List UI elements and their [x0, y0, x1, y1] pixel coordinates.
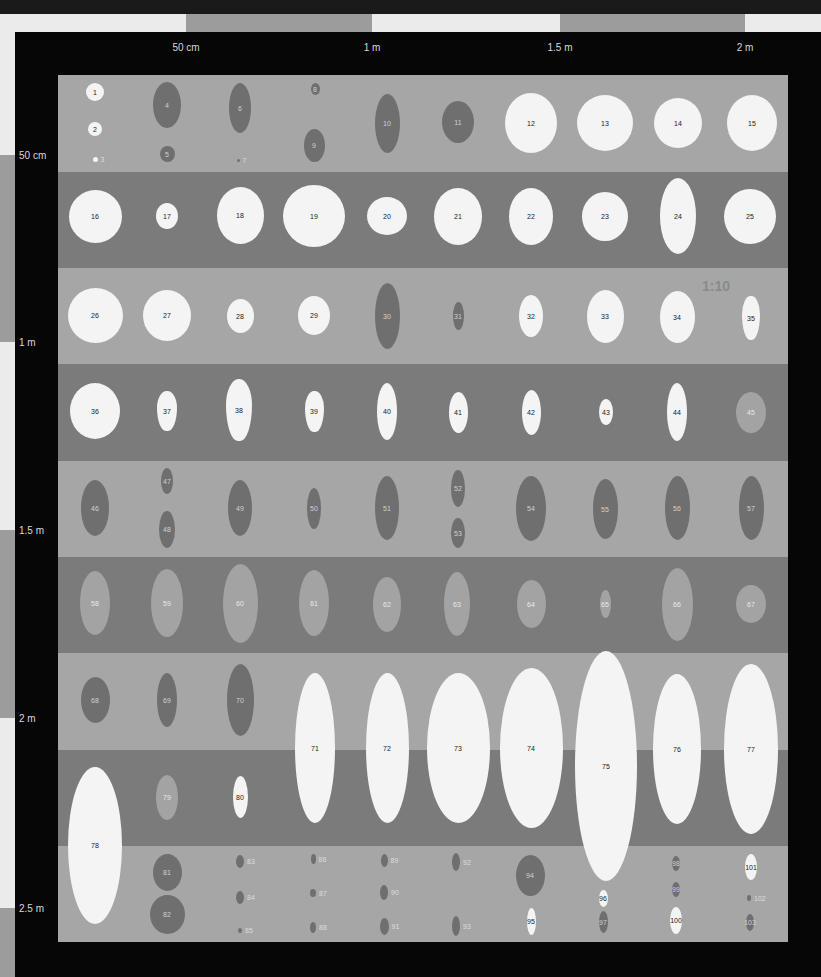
- specimen-50: 50: [307, 488, 321, 529]
- specimen-number: 56: [673, 505, 681, 512]
- specimen-number: 14: [674, 120, 682, 127]
- specimen-number: 9: [312, 142, 316, 149]
- specimen-10: 10: [375, 94, 400, 153]
- specimen-number: 81: [163, 869, 171, 876]
- specimen-46: 46: [81, 480, 109, 536]
- specimen-19: 19: [283, 185, 345, 247]
- specimen-number: 62: [383, 601, 391, 608]
- scale-bar-segment: [0, 908, 15, 977]
- scale-bar-segment: [0, 14, 15, 155]
- specimen-92: [452, 853, 460, 871]
- specimen-number: 23: [601, 213, 609, 220]
- specimen-48: 48: [159, 511, 175, 548]
- specimen-65: 65: [600, 590, 611, 618]
- specimen-7: [237, 159, 240, 162]
- specimen-number: 54: [527, 505, 535, 512]
- specimen-5: 5: [160, 146, 175, 162]
- specimen-number: 22: [527, 213, 535, 220]
- specimen-31: 31: [453, 302, 464, 330]
- specimen-96: 96: [599, 890, 608, 907]
- specimen-number: 69: [163, 697, 171, 704]
- left-scale-label: 50 cm: [19, 150, 46, 161]
- scale-bar-segment: [0, 718, 15, 908]
- specimen-number: 98: [672, 860, 680, 867]
- specimen-number: 70: [236, 697, 244, 704]
- specimen-51: 51: [375, 476, 399, 540]
- specimen-number: 60: [236, 600, 244, 607]
- scale-bar-segment: [0, 342, 15, 530]
- specimen-number: 71: [311, 745, 319, 752]
- specimen-number: 90: [391, 889, 399, 896]
- specimen-40: 40: [377, 383, 397, 440]
- specimen-75: 75: [575, 651, 637, 881]
- specimen-61: 61: [299, 570, 329, 636]
- specimen-99: 99: [672, 882, 680, 897]
- specimen-number: 67: [747, 601, 755, 608]
- specimen-14: 14: [654, 98, 702, 148]
- specimen-number: 1: [93, 89, 97, 96]
- specimen-54: 54: [516, 476, 546, 541]
- specimen-number: 17: [163, 213, 171, 220]
- specimen-number: 66: [673, 601, 681, 608]
- specimen-number: 8: [313, 86, 317, 93]
- specimen-57: 57: [739, 476, 764, 540]
- specimen-number: 33: [601, 313, 609, 320]
- specimen-number: 32: [527, 313, 535, 320]
- specimen-71: 71: [295, 673, 335, 823]
- specimen-number: 101: [745, 864, 757, 871]
- specimen-86: [311, 854, 316, 864]
- left-scale-label: 1 m: [19, 337, 36, 348]
- specimen-16: 16: [69, 190, 122, 243]
- specimen-35: 35: [742, 296, 760, 340]
- specimen-94: 94: [516, 855, 545, 896]
- specimen-number: 31: [454, 313, 462, 320]
- specimen-number: 47: [163, 478, 171, 485]
- top-scale-label: 2 m: [737, 42, 754, 53]
- specimen-30: 30: [375, 283, 400, 349]
- specimen-52: 52: [451, 470, 465, 507]
- specimen-number: 42: [527, 409, 535, 416]
- specimen-47: 47: [161, 468, 173, 494]
- top-scale-label: 50 cm: [172, 42, 199, 53]
- specimen-81: 81: [153, 854, 182, 891]
- specimen-78: 78: [68, 767, 122, 924]
- specimen-number: 65: [601, 601, 609, 608]
- specimen-102: [747, 895, 751, 901]
- scale-bar-segment: [0, 14, 186, 32]
- specimen-93: [452, 916, 460, 936]
- specimen-59: 59: [151, 569, 183, 637]
- specimen-number: 19: [310, 213, 318, 220]
- specimen-18: 18: [217, 187, 264, 244]
- specimen-number: 46: [91, 505, 99, 512]
- specimen-44: 44: [667, 383, 687, 441]
- specimen-58: 58: [80, 571, 110, 635]
- specimen-number: 49: [236, 505, 244, 512]
- specimen-number: 4: [165, 102, 169, 109]
- specimen-103: 103: [746, 914, 754, 931]
- specimen-number: 73: [454, 745, 462, 752]
- scale-ratio: 1:10: [702, 278, 730, 294]
- specimen-number: 2: [93, 126, 97, 133]
- top-strip: [0, 0, 821, 14]
- specimen-number: 15: [748, 120, 756, 127]
- top-scale-label: 1.5 m: [547, 42, 572, 53]
- specimen-68: 68: [81, 677, 110, 723]
- specimen-2: 2: [88, 122, 102, 136]
- specimen-82: 82: [150, 895, 185, 934]
- specimen-27: 27: [143, 290, 191, 341]
- specimen-number: 36: [91, 408, 99, 415]
- specimen-number: 24: [674, 213, 682, 220]
- specimen-95: 95: [527, 908, 536, 935]
- specimen-74: 74: [500, 668, 563, 828]
- specimen-number: 68: [91, 697, 99, 704]
- specimen-number: 74: [527, 745, 535, 752]
- specimen-number: 13: [601, 120, 609, 127]
- specimen-number: 87: [319, 890, 327, 897]
- specimen-number: 10: [383, 120, 391, 127]
- specimen-number: 93: [463, 923, 471, 930]
- specimen-1: 1: [86, 83, 104, 101]
- specimen-24: 24: [660, 178, 696, 254]
- specimen-12: 12: [505, 93, 557, 153]
- specimen-number: 12: [527, 120, 535, 127]
- left-scale-label: 1.5 m: [19, 525, 44, 536]
